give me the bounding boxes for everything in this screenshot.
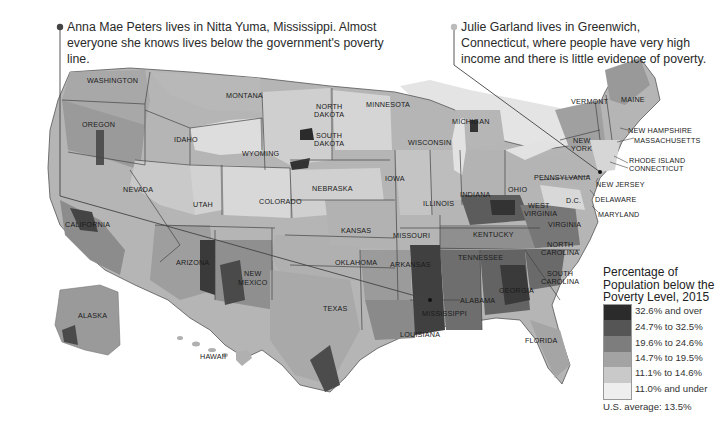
label-arizona: ARIZONA: [176, 258, 209, 267]
label-michigan: MICHIGAN: [452, 117, 490, 126]
label-kansas: KANSAS: [341, 226, 371, 235]
label-pennsylvania: PENNSYLVANIA: [534, 173, 590, 182]
legend-swatch-24-7-to-32-5: [603, 320, 632, 336]
label-new-mexico-1: NEW: [244, 269, 261, 278]
label-tennessee: TENNESSEE: [458, 253, 503, 262]
label-montana: MONTANA: [226, 91, 263, 100]
label-idaho: IDAHO: [174, 135, 198, 144]
label-north-carolina-2: CAROLINA: [541, 248, 579, 257]
label-texas: TEXAS: [323, 304, 348, 313]
label-hawaii: HAWAII: [200, 352, 226, 361]
left-callout-dot: [57, 24, 63, 30]
alaska: [55, 285, 120, 355]
right-callout-dot: [451, 24, 457, 30]
label-georgia: GEORGIA: [499, 286, 534, 295]
legend-label-19-6-to-24-6: 19.6% to 24.6%: [635, 337, 703, 348]
label-west-virginia-2: VIRGINIA: [524, 209, 557, 218]
label-utah: UTAH: [193, 200, 213, 209]
label-maine: MAINE: [621, 95, 645, 104]
label-dc: D.C.: [566, 196, 581, 205]
label-wyoming: WYOMING: [242, 149, 280, 158]
label-indiana: INDIANA: [460, 190, 491, 199]
legend-label-32-6-and-over: 32.6% and over: [635, 305, 702, 316]
label-wisconsin: WISCONSIN: [408, 138, 451, 147]
label-nevada: NEVADA: [123, 185, 153, 194]
label-alaska: ALASKA: [78, 311, 107, 320]
label-new-mexico-2: MEXICO: [238, 278, 268, 287]
label-maryland: MARYLAND: [598, 210, 639, 219]
label-florida: FLORIDA: [525, 336, 558, 345]
legend-title-line1: Percentage of: [603, 266, 721, 279]
label-north-dakota-2: DAKOTA: [314, 110, 344, 119]
label-alabama: ALABAMA: [460, 296, 495, 305]
legend-swatch-11-1-to-14-6: [603, 367, 632, 383]
legend-label-14-7-to-19-5: 14.7% to 19.5%: [635, 352, 703, 363]
label-mississippi: MISSISSIPPI: [422, 309, 467, 318]
label-south-carolina-2: CAROLINA: [541, 277, 579, 286]
label-illinois: ILLINOIS: [423, 199, 454, 208]
label-connecticut: CONNECTICUT: [629, 164, 684, 173]
label-south-dakota-2: DAKOTA: [314, 139, 344, 148]
legend-swatch-19-6-to-24-6: [603, 336, 632, 352]
legend-title-line3: Poverty Level, 2015: [603, 291, 721, 304]
legend-swatch-14-7-to-19-5: [603, 352, 632, 368]
label-colorado: COLORADO: [259, 197, 302, 206]
legend-label-11-0-and-under: 11.0% and under: [635, 383, 707, 394]
callout-anna-mae-peters: Anna Mae Peters lives in Nitta Yuma, Mis…: [67, 19, 397, 67]
legend-swatch-11-0-and-under: [603, 383, 632, 400]
label-oregon: OREGON: [82, 120, 115, 129]
label-nebraska: NEBRASKA: [312, 184, 353, 193]
label-minnesota: MINNESOTA: [366, 100, 410, 109]
label-new-hampshire: NEW HAMPSHIRE: [628, 126, 692, 135]
label-virginia: VIRGINIA: [548, 220, 581, 229]
label-iowa: IOWA: [385, 174, 405, 183]
label-ohio: OHIO: [508, 185, 527, 194]
nitta-yuma-dot: [428, 298, 432, 302]
legend-title: Percentage of Population below the Pover…: [603, 266, 721, 304]
label-missouri: MISSOURI: [393, 231, 430, 240]
label-oklahoma: OKLAHOMA: [335, 258, 377, 267]
legend-swatch-32-6-and-over: [603, 304, 632, 321]
label-california: CALIFORNIA: [65, 220, 110, 229]
greenwich-dot: [598, 170, 602, 174]
label-massachusetts: MASSACHUSETTS: [634, 136, 701, 145]
label-washington: WASHINGTON: [87, 76, 138, 85]
label-new-jersey: NEW JERSEY: [596, 180, 645, 189]
label-delaware: DELAWARE: [595, 195, 636, 204]
label-new-york-2: YORK: [571, 144, 592, 153]
legend-label-24-7-to-32-5: 24.7% to 32.5%: [635, 321, 703, 332]
us-average: U.S. average: 13.5%: [603, 401, 692, 412]
label-louisiana: LOUISIANA: [400, 330, 440, 339]
label-vermont: VERMONT: [571, 97, 609, 106]
label-kentucky: KENTUCKY: [473, 230, 514, 239]
legend-label-11-1-to-14-6: 11.1% to 14.6%: [635, 367, 702, 378]
callout-julie-garland: Julie Garland lives in Greenwich, Connec…: [461, 19, 711, 67]
label-arkansas: ARKANSAS: [390, 260, 431, 269]
